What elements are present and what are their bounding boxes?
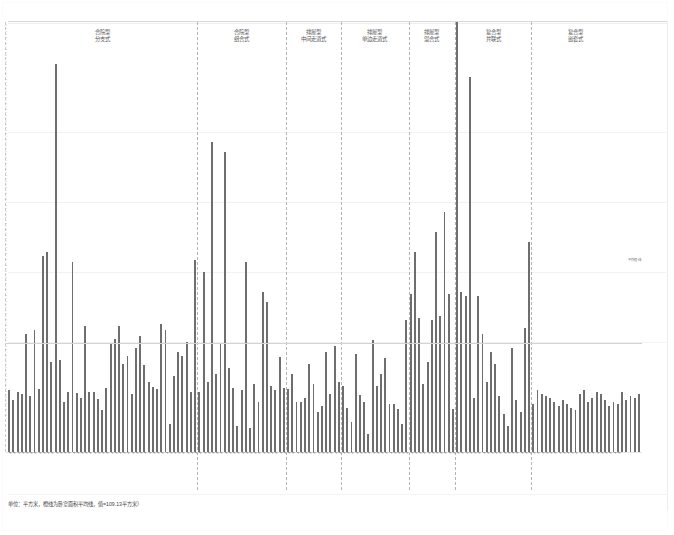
bar (181, 356, 183, 452)
bar (291, 374, 293, 452)
average-reference-line (6, 343, 642, 344)
average-line-label: 平均值线 (628, 257, 641, 262)
bar (152, 387, 154, 452)
bar (482, 334, 484, 452)
section-header-subtype: 组合式 (197, 36, 286, 43)
bar (211, 142, 213, 452)
bar (76, 393, 78, 452)
section-header-subtype: 并联式 (455, 36, 531, 43)
section-header: 复合型嵌套式 (531, 29, 620, 43)
bar (490, 352, 492, 452)
section-header: 合院型分支式 (7, 29, 197, 43)
bar (393, 404, 395, 452)
bar (410, 294, 412, 452)
bar (346, 408, 348, 452)
bar (469, 77, 471, 452)
bar (515, 400, 517, 452)
bar (8, 390, 10, 452)
section-header-type: 排屋型 (367, 29, 382, 35)
bar (135, 348, 137, 452)
bar (431, 320, 433, 452)
bar (528, 242, 530, 452)
footnote-text: 单位：平方米，橙线为卧室面积平均线，值=109.13平方米） (8, 500, 142, 507)
bar (308, 364, 310, 452)
bar (249, 428, 251, 452)
bar (63, 402, 65, 452)
bar (173, 376, 175, 452)
bar (34, 330, 36, 452)
x-axis-label: 样本145 (618, 452, 626, 455)
bar (50, 362, 52, 452)
bar (367, 434, 369, 452)
bar (558, 406, 560, 452)
bar (17, 392, 19, 452)
section-header: 复合型并联式 (455, 29, 531, 43)
bar (630, 396, 632, 452)
bar (177, 352, 179, 452)
bar (274, 390, 276, 452)
chart-page: –‑–‑–‑–‑–‑–‑–‑–‑–‑–‑–‑–‑–‑–‑–‑–‑–‑–‑–‑–‑… (0, 0, 674, 535)
bar (80, 398, 82, 452)
section-header: 排屋型混合式 (409, 29, 455, 43)
x-axis-labels-group: 样本1样本2样本3样本4样本5样本6样本7样本8样本9样本10样本11样本12样… (0, 452, 674, 498)
right-border-rule (667, 21, 668, 511)
bar (397, 409, 399, 452)
bar (532, 404, 534, 452)
bar (88, 392, 90, 452)
bar (122, 364, 124, 452)
bar (97, 399, 99, 452)
bar (55, 64, 57, 452)
bar (304, 398, 306, 452)
bar (511, 348, 513, 452)
bar (93, 392, 95, 452)
bar (84, 326, 86, 452)
bar (118, 326, 120, 452)
section-header-type: 合院型 (234, 29, 249, 35)
bar (253, 384, 255, 452)
bar (258, 402, 260, 452)
bar (262, 292, 264, 452)
bar (575, 410, 577, 452)
bar (405, 320, 407, 452)
bar (338, 382, 340, 452)
bar (600, 394, 602, 452)
bar (46, 252, 48, 452)
bar (21, 394, 23, 452)
section-header: 排屋型中间走道式 (286, 29, 341, 43)
bar (460, 292, 462, 452)
bar (215, 374, 217, 452)
bar (236, 426, 238, 452)
bar (477, 296, 479, 452)
bar (232, 388, 234, 452)
bar (545, 396, 547, 452)
y-axis-tick-labels: –‑–‑–‑–‑–‑–‑–‑–‑–‑–‑–‑–‑–‑–‑–‑–‑–‑–‑–‑–‑… (0, 24, 7, 420)
section-header-type: 复合型 (486, 29, 501, 35)
bar (296, 402, 298, 452)
bar (207, 382, 209, 452)
section-header-subtype: 中间走道式 (286, 36, 341, 43)
bar (270, 386, 272, 452)
bar (198, 392, 200, 452)
bar (228, 368, 230, 452)
bar (12, 400, 14, 452)
bar (143, 365, 145, 452)
bar (494, 364, 496, 452)
bar (414, 252, 416, 452)
bar (570, 408, 572, 452)
bar (110, 344, 112, 452)
bar (439, 316, 441, 452)
bar (363, 402, 365, 452)
section-header-type: 复合型 (568, 29, 583, 35)
bar (634, 398, 636, 452)
bar (351, 422, 353, 452)
bar (42, 256, 44, 452)
bar (241, 390, 243, 452)
bottom-rule (8, 494, 668, 495)
bar (562, 400, 564, 452)
bar (127, 356, 129, 452)
bar (604, 400, 606, 452)
section-header: 合院型组合式 (197, 29, 286, 43)
bar (596, 392, 598, 452)
bar (401, 424, 403, 452)
bar (473, 398, 475, 452)
